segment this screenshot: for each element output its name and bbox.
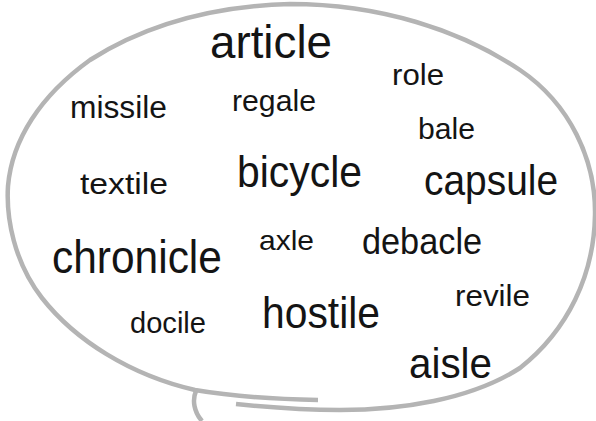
word-missile: missile: [70, 92, 167, 123]
word-capsule: capsule: [424, 160, 558, 202]
word-regale: regale: [232, 86, 316, 116]
word-article: article: [210, 19, 332, 65]
word-axle: axle: [259, 227, 314, 255]
word-aisle: aisle: [409, 343, 492, 385]
speech-bubble-tail: [194, 391, 202, 421]
word-bicycle: bicycle: [237, 150, 362, 194]
word-hostile: hostile: [262, 291, 380, 335]
word-revile: revile: [455, 282, 530, 311]
word-docile: docile: [130, 309, 206, 338]
word-bale: bale: [418, 115, 475, 144]
word-debacle: debacle: [362, 224, 482, 260]
word-chronicle: chronicle: [52, 234, 222, 280]
word-textile: textile: [80, 170, 168, 199]
word-role: role: [392, 61, 444, 90]
